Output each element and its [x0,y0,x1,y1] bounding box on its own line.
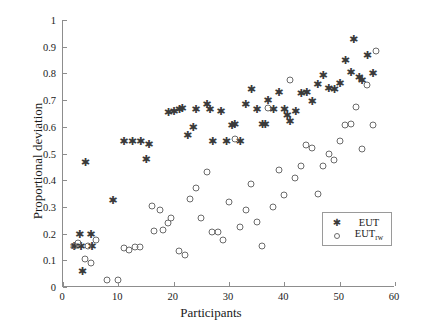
data-point-asterisk: ✱ [335,78,344,87]
data-point-asterisk: ✱ [75,229,84,238]
data-point-circle [275,166,282,173]
data-point-circle [286,77,293,84]
data-point-asterisk: ✱ [142,154,151,163]
y-tick-label: 1 [20,15,56,26]
data-point-circle [309,145,316,152]
y-tick-label: 0.3 [20,201,56,212]
data-point-circle [314,190,321,197]
data-point-circle [214,229,221,236]
data-point-circle [231,135,238,142]
data-point-asterisk: ✱ [241,100,250,109]
scatter-plot-figure: Proportional deviation Participants ✱✱✱✱… [0,0,422,329]
chart-legend: ✱ EUT EUTrw [322,212,392,246]
data-point-circle [281,191,288,198]
data-point-asterisk: ✱ [308,97,317,106]
circle-marker-icon [325,230,349,241]
data-point-circle [320,162,327,169]
data-point-circle [148,202,155,209]
x-tick [118,282,119,286]
y-tick [63,127,67,128]
data-point-asterisk: ✱ [216,106,225,115]
y-tick-label: 0.6 [20,121,56,132]
x-tick-label: 20 [167,291,178,302]
data-point-asterisk: ✱ [108,196,117,205]
y-tick [63,73,67,74]
x-tick-label: 0 [59,291,64,302]
data-point-circle [248,181,255,188]
data-point-circle [167,214,174,221]
x-tick [63,282,64,286]
data-point-asterisk: ✱ [285,117,294,126]
data-point-asterisk: ✱ [222,137,231,146]
data-point-asterisk: ✱ [189,122,198,131]
data-point-circle [87,259,94,266]
y-tick [63,154,67,155]
data-point-asterisk: ✱ [363,50,372,59]
data-point-asterisk: ✱ [349,34,358,43]
data-point-circle [187,195,194,202]
x-tick-label: 10 [112,291,123,302]
data-point-circle [84,242,91,249]
x-tick-label: 50 [333,291,344,302]
x-tick [229,282,230,286]
y-tick [63,47,67,48]
plot-frame: ✱✱✱✱✱✱✱✱✱✱✱✱✱✱✱✱✱✱✱✱✱✱✱✱✱✱✱✱✱✱✱✱✱✱✱✱✱✱✱✱… [62,20,394,287]
data-point-asterisk: ✱ [205,105,214,114]
data-point-circle [220,237,227,244]
plot-data-area: ✱✱✱✱✱✱✱✱✱✱✱✱✱✱✱✱✱✱✱✱✱✱✱✱✱✱✱✱✱✱✱✱✱✱✱✱✱✱✱✱… [63,20,394,286]
data-point-circle [192,185,199,192]
data-point-circle [325,150,332,157]
data-point-asterisk: ✱ [368,69,377,78]
data-point-circle [259,242,266,249]
data-point-asterisk: ✱ [81,157,90,166]
data-point-asterisk: ✱ [247,85,256,94]
y-tick-label: 0.5 [20,148,56,159]
y-tick-label: 0.8 [20,68,56,79]
data-point-circle [347,121,354,128]
x-tick-label: 40 [278,291,289,302]
data-point-circle [270,203,277,210]
x-tick-label: 60 [389,291,400,302]
data-point-circle [93,237,100,244]
data-point-circle [151,227,158,234]
x-axis-label: Participants [0,305,422,321]
x-tick [395,282,396,286]
y-tick [63,260,67,261]
y-tick-label: 0.9 [20,41,56,52]
data-point-circle [159,226,166,233]
data-point-asterisk: ✱ [319,70,328,79]
y-tick [63,207,67,208]
data-point-circle [253,218,260,225]
y-tick-label: 0.7 [20,95,56,106]
data-point-circle [292,174,299,181]
x-tick [340,282,341,286]
y-tick [63,100,67,101]
data-point-circle [237,223,244,230]
y-tick [63,287,67,288]
data-point-asterisk: ✱ [274,88,283,97]
data-point-circle [137,243,144,250]
data-point-circle [331,157,338,164]
asterisk-marker-icon: ✱ [325,217,349,228]
y-tick-label: 0 [20,282,56,293]
y-tick-label: 0.2 [20,228,56,239]
data-point-circle [358,146,365,153]
y-tick [63,180,67,181]
data-point-circle [364,82,371,89]
data-point-asterisk: ✱ [230,120,239,129]
data-point-circle [203,169,210,176]
data-point-circle [264,105,271,112]
data-point-circle [336,138,343,145]
data-point-asterisk: ✱ [144,140,153,149]
data-point-circle [372,47,379,54]
x-tick-label: 30 [223,291,234,302]
data-point-circle [198,214,205,221]
data-point-circle [75,239,82,246]
data-point-asterisk: ✱ [260,120,269,129]
data-point-asterisk: ✱ [291,106,300,115]
data-point-asterisk: ✱ [78,266,87,275]
legend-label-eut: EUT [349,217,389,228]
data-point-circle [353,103,360,110]
data-point-circle [297,162,304,169]
y-tick-label: 0.1 [20,255,56,266]
